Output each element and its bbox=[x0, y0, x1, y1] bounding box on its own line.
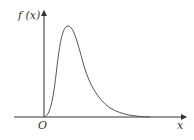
y-axis-label: f (x) bbox=[17, 9, 40, 22]
density-diagram: f (x) O x bbox=[0, 0, 194, 140]
density-curve bbox=[44, 26, 150, 117]
origin-label: O bbox=[38, 119, 47, 132]
x-axis-label: x bbox=[177, 119, 184, 132]
